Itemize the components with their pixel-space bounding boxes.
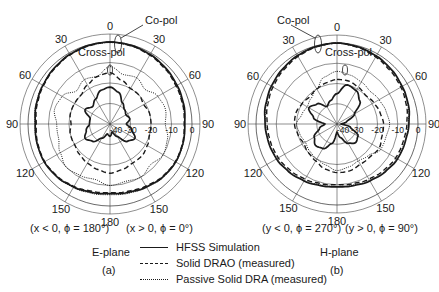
panel-b-label: (b): [330, 264, 343, 276]
legend: HFSS Simulation Solid DRAO (measured) Pa…: [140, 239, 327, 287]
angle-tick-label: 90: [6, 118, 18, 130]
angle-tick-label: 30: [55, 33, 67, 45]
angle-tick-label: 150: [376, 202, 394, 214]
panel-b-caption-left: (y < 0, ϕ = 270°): [262, 222, 341, 234]
angle-tick-label: 0: [334, 21, 340, 33]
angle-tick-label: 120: [412, 167, 430, 179]
angle-tick-label: 150: [279, 202, 297, 214]
dotted-line-swatch-icon: [140, 279, 168, 280]
panel-a-caption-right: (x > 0, ϕ = 0°): [126, 222, 193, 234]
angle-tick-label: 150: [150, 203, 168, 215]
radial-tick-label: -20: [371, 125, 384, 135]
legend-item-solid-drao: Solid DRAO (measured): [140, 255, 327, 271]
polar-plot-h-plane: 0306090120150180150120906030-40-30-20-10…: [234, 14, 439, 227]
angle-tick-label: 120: [186, 167, 204, 179]
cross-pol-annotation: Cross-pol: [78, 46, 125, 58]
angle-tick-label: 60: [415, 70, 427, 82]
angle-tick-label: 120: [244, 167, 262, 179]
panel-a-caption-left: (x < 0, ϕ = 180°): [30, 222, 109, 234]
angle-tick-label: 90: [202, 118, 214, 130]
solid-line-swatch-icon: [140, 247, 168, 248]
co-pol-annotation: Co-pol: [277, 14, 309, 26]
polar-plot-e-plane: 0306090120150180150120906030-40-30-20-10…: [6, 14, 214, 228]
angle-tick-label: 90: [428, 118, 439, 130]
co-pol-annotation: Co-pol: [145, 14, 177, 26]
angle-tick-label: 30: [379, 34, 391, 46]
radial-tick-label: -10: [165, 125, 178, 135]
angle-tick-label: 150: [52, 203, 70, 215]
panel-b-caption-right: (y > 0, ϕ = 90°): [345, 222, 418, 234]
angle-tick-label: 30: [282, 34, 294, 46]
co-pol-marker-icon: [315, 35, 322, 53]
legend-label: HFSS Simulation: [176, 241, 260, 253]
cross-pol-annotation: Cross-pol: [325, 46, 372, 58]
angle-tick-label: 120: [16, 167, 34, 179]
series-solid: [309, 85, 361, 149]
radial-tick-label: 0: [190, 125, 195, 135]
e-plane-label: E-plane: [92, 246, 130, 258]
legend-label: Passive Solid DRA (measured): [176, 273, 327, 285]
legend-label: Solid DRAO (measured): [176, 257, 295, 269]
angle-tick-label: 90: [234, 118, 246, 130]
angle-tick-label: 30: [153, 33, 165, 45]
angle-tick-label: 60: [247, 70, 259, 82]
dashed-line-swatch-icon: [140, 263, 168, 264]
angle-tick-label: 60: [19, 69, 31, 81]
cross-pol-marker-icon: [343, 65, 348, 75]
legend-item-passive-dra: Passive Solid DRA (measured): [140, 271, 327, 287]
radial-tick-label: -10: [392, 125, 405, 135]
angle-tick-label: 0: [107, 20, 113, 32]
radial-tick-label: 0: [416, 125, 421, 135]
legend-item-hfss: HFSS Simulation: [140, 239, 327, 255]
panel-a-label: (a): [102, 264, 115, 276]
angle-tick-label: 60: [189, 69, 201, 81]
